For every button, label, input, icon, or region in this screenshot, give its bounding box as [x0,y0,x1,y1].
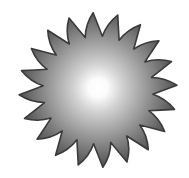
sun-icon [0,0,189,178]
sun-illustration [0,0,189,178]
sun-body [19,13,177,168]
